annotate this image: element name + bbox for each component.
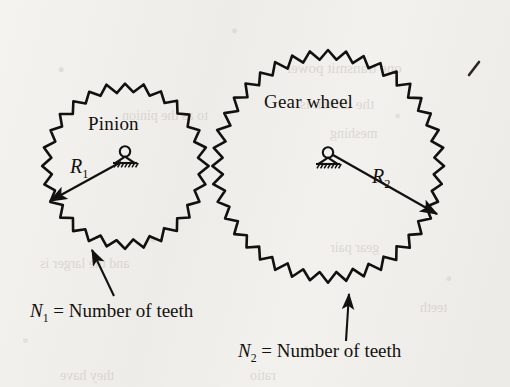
pinion-radius-symbol-subscript: 1 (82, 167, 88, 181)
pinion-teeth-caption-text: = Number of teeth (53, 300, 193, 321)
gear-wheel-radius-symbol: R2 (372, 165, 390, 192)
pinion-teeth-callout-arrow (92, 250, 114, 296)
gear-wheel-label: Gear wheel (264, 91, 353, 113)
pinion-teeth-symbol-subscript: 1 (43, 312, 49, 325)
gear-wheel-teeth-caption: N2 = Number of teeth (238, 340, 401, 366)
gear-wheel-teeth-caption-text: = Number of teeth (261, 340, 401, 361)
pinion-radius-symbol: R1 (70, 155, 88, 182)
pinion-radius-symbol-base: R (70, 155, 82, 177)
gear-pair-figure: one transmit powerthe driven isto as the… (0, 0, 510, 387)
gear-wheel-teeth-symbol-base: N (238, 340, 251, 361)
gear-wheel-teeth-callout-arrow (346, 294, 349, 341)
pinion-label: Pinion (88, 113, 139, 135)
gear-wheel-radius-symbol-base: R (372, 165, 384, 187)
gear-wheel-teeth-symbol-subscript: 2 (251, 352, 257, 365)
pinion-teeth-symbol: N1 (30, 300, 49, 321)
pivot-circle-icon (323, 147, 333, 157)
pinion-teeth-symbol-base: N (30, 300, 43, 321)
pivot-circle-icon (120, 146, 130, 156)
stray-pen-mark (469, 62, 479, 75)
pinion-teeth-caption: N1 = Number of teeth (30, 300, 193, 326)
gear-diagram-svg (0, 0, 510, 387)
gear-wheel-radius-symbol-subscript: 2 (384, 177, 390, 191)
gear-wheel-teeth-symbol: N2 (238, 340, 257, 361)
